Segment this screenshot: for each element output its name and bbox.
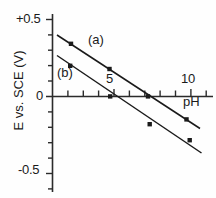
series-b-point [108, 94, 112, 98]
x-tick-label-ten: 10 [181, 72, 195, 85]
y-tick-marks [46, 20, 53, 189]
y-tick-label-positive-half: +0.5 [16, 12, 40, 25]
y-tick-label-zero: 0 [36, 89, 43, 102]
series-b-fit-line [57, 56, 202, 154]
x-tick-label-five: 5 [106, 72, 113, 85]
series-a-point [184, 117, 188, 121]
series-a-annotation: (a) [88, 33, 104, 46]
x-axis-title: pH [183, 95, 200, 108]
series-a-group [57, 35, 200, 129]
series-a-point [146, 94, 150, 98]
series-b-point [188, 138, 192, 142]
series-a-point [69, 42, 73, 46]
y-tick-label-negative-half: -0.5 [18, 163, 39, 176]
y-axis-title: E vs. SCE (V) [12, 43, 25, 139]
series-a-fit-line [57, 35, 200, 129]
series-b-annotation: (b) [57, 66, 73, 79]
chart-figure: E vs. SCE (V) +0.5 0 -0.5 5 10 pH (a) (b… [0, 0, 216, 198]
series-b-point [148, 122, 152, 126]
series-b-group [57, 56, 202, 154]
